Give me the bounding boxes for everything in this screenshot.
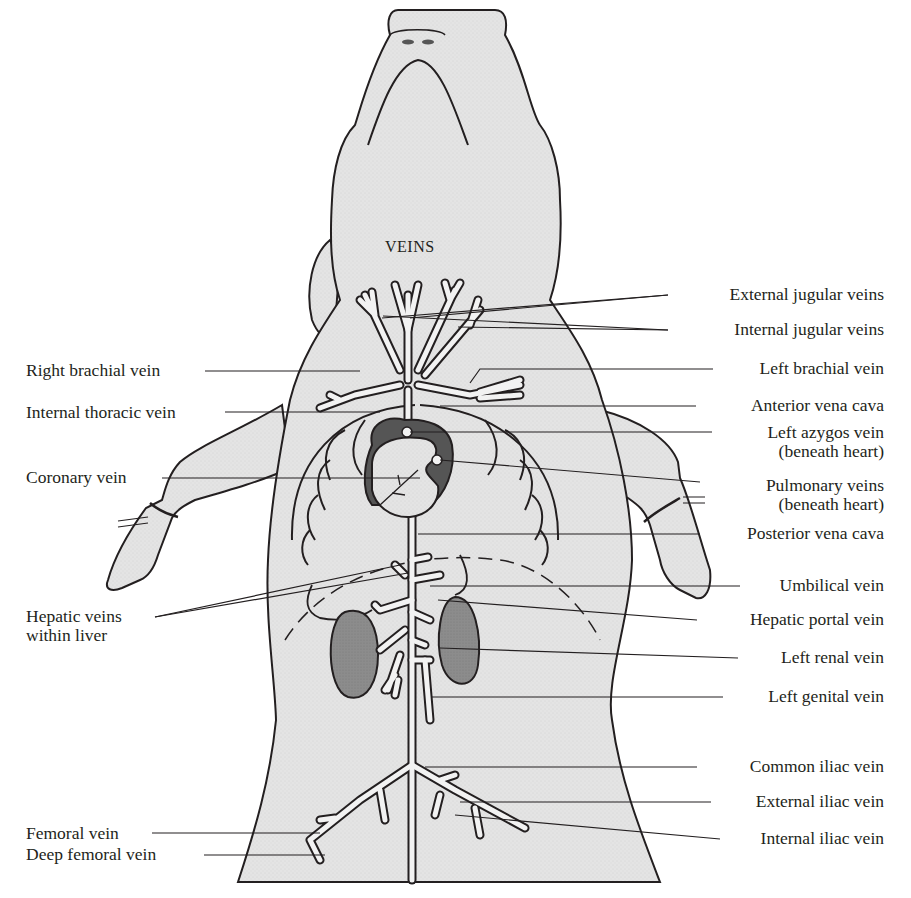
label-pulmonary-veins: Pulmonary veins (beneath heart) bbox=[766, 476, 884, 514]
label-pulmonary-veins-line1: Pulmonary veins bbox=[766, 476, 884, 495]
label-coronary-vein: Coronary vein bbox=[26, 468, 127, 487]
label-posterior-vena-cava: Posterior vena cava bbox=[747, 524, 884, 543]
label-hepatic-veins: Hepatic veins within liver bbox=[26, 607, 122, 645]
label-left-genital-vein: Left genital vein bbox=[768, 687, 884, 706]
label-external-jugular-veins: External jugular veins bbox=[729, 285, 884, 304]
label-internal-jugular-veins: Internal jugular veins bbox=[734, 320, 884, 339]
label-anterior-vena-cava: Anterior vena cava bbox=[751, 396, 884, 415]
label-left-brachial-vein: Left brachial vein bbox=[760, 359, 884, 378]
diagram-title: VEINS bbox=[385, 238, 435, 256]
label-left-azygos-vein-line1: Left azygos vein bbox=[767, 423, 884, 442]
label-hepatic-veins-line1: Hepatic veins bbox=[26, 607, 122, 626]
label-deep-femoral-vein: Deep femoral vein bbox=[26, 845, 156, 864]
label-femoral-vein: Femoral vein bbox=[26, 824, 119, 843]
label-pulmonary-veins-line2: (beneath heart) bbox=[766, 495, 884, 514]
label-external-iliac-vein: External iliac vein bbox=[756, 792, 884, 811]
label-left-renal-vein: Left renal vein bbox=[781, 648, 884, 667]
label-left-azygos-vein: Left azygos vein (beneath heart) bbox=[767, 423, 884, 461]
vein-diagram: VEINS Right brachial vein Internal thora… bbox=[0, 0, 911, 898]
label-internal-iliac-vein: Internal iliac vein bbox=[761, 829, 884, 848]
kidney-right-of-animal bbox=[331, 611, 378, 698]
label-internal-thoracic-vein: Internal thoracic vein bbox=[26, 403, 176, 422]
forelimb-left bbox=[107, 405, 290, 590]
label-left-azygos-vein-line2: (beneath heart) bbox=[767, 442, 884, 461]
label-umbilical-vein: Umbilical vein bbox=[780, 576, 885, 595]
label-right-brachial-vein: Right brachial vein bbox=[26, 361, 160, 380]
label-common-iliac-vein: Common iliac vein bbox=[750, 757, 884, 776]
label-hepatic-portal-vein: Hepatic portal vein bbox=[750, 610, 884, 629]
label-hepatic-veins-line2: within liver bbox=[26, 626, 122, 645]
